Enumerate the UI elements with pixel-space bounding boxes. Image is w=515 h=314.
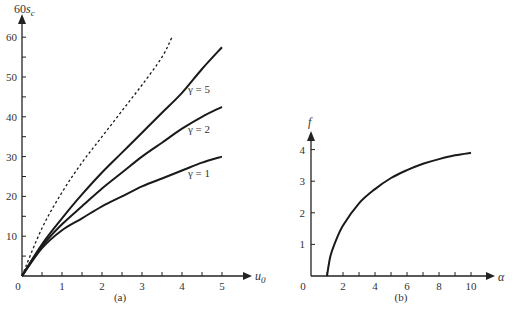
y-tick-label: 10 <box>6 230 18 242</box>
x-tick-label: 10 <box>466 280 478 292</box>
y-tick-label: 20 <box>6 190 18 202</box>
x-tick-label: 8 <box>436 280 442 292</box>
panel-a: 012345102030405060u060scγ = 5γ = 2γ = 1(… <box>6 2 266 304</box>
x-tick-label: 3 <box>139 280 145 292</box>
y-tick-label: 4 <box>300 144 306 156</box>
y-tick-label: 60 <box>6 31 18 43</box>
series-line <box>22 47 222 276</box>
x-axis-arrow-icon <box>486 272 495 280</box>
y-tick-label: 1 <box>300 238 306 250</box>
x-tick-label: 2 <box>340 280 346 292</box>
x-tick-label: 4 <box>372 280 378 292</box>
x-axis-label: α <box>498 270 505 284</box>
y-tick-label: 40 <box>6 111 18 123</box>
y-axis-arrow-icon <box>307 131 315 141</box>
curve-label-gamma-5: γ = 5 <box>187 83 211 95</box>
series-line <box>327 153 471 276</box>
curve-label-gamma-1: γ = 1 <box>187 167 210 179</box>
figure: 012345102030405060u060scγ = 5γ = 2γ = 1(… <box>0 0 515 314</box>
y-axis-label: f <box>308 115 313 129</box>
y-tick-label: 30 <box>6 151 18 163</box>
panel-label-a: (a) <box>114 291 127 304</box>
x-axis-label: u0 <box>255 269 266 285</box>
x-tick-label: 5 <box>219 280 225 292</box>
panel-label-b: (b) <box>395 291 408 304</box>
x-tick-label: 1 <box>59 280 65 292</box>
y-tick-label: 2 <box>300 207 306 219</box>
x-tick-label: 2 <box>99 280 105 292</box>
curve-label-gamma-2: γ = 2 <box>187 123 210 135</box>
y-axis-label: 60sc <box>14 2 35 18</box>
x-tick-label: 4 <box>179 280 185 292</box>
panel-b: 02468101234αf(b) <box>300 115 506 304</box>
x-axis-arrow-icon <box>243 272 252 280</box>
x-tick-label: 0 <box>15 280 21 292</box>
y-tick-label: 50 <box>6 71 18 83</box>
y-tick-label: 3 <box>300 175 306 187</box>
x-tick-label: 0 <box>300 280 306 292</box>
